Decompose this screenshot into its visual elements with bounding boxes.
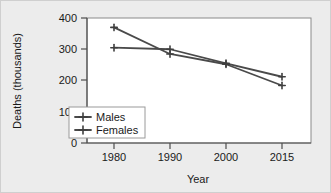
y-tick-label-400: 400 — [59, 12, 77, 24]
y-axis-title: Deaths (thousands) — [11, 33, 23, 129]
x-axis-title: Year — [187, 173, 210, 185]
x-tick-label-1980: 1980 — [102, 151, 126, 163]
line-chart: 400 300 200 100 0 1980 1990 2000 2015 Ye… — [1, 1, 331, 193]
legend-label-males: Males — [96, 111, 126, 123]
x-tick-label-2015: 2015 — [270, 151, 294, 163]
x-tick-label-2000: 2000 — [214, 151, 238, 163]
x-tick-label-1990: 1990 — [158, 151, 182, 163]
y-tick-label-0: 0 — [71, 137, 77, 149]
y-tick-label-200: 200 — [59, 74, 77, 86]
y-tick-label-300: 300 — [59, 43, 77, 55]
chart-figure: 400 300 200 100 0 1980 1990 2000 2015 Ye… — [0, 0, 331, 193]
legend-label-females: Females — [96, 124, 139, 136]
